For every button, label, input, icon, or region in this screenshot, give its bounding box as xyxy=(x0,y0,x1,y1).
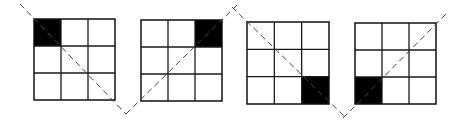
grid-2 xyxy=(126,4,238,114)
dashed-diagonal-line xyxy=(20,4,126,114)
grid-3 xyxy=(232,7,346,118)
dashed-diagonal-line xyxy=(343,12,448,118)
grid-1 xyxy=(20,4,126,114)
filled-cell-bottom-left xyxy=(355,77,382,104)
grid-4 xyxy=(343,12,448,118)
diagram-canvas xyxy=(0,0,465,122)
filled-cell-bottom-right xyxy=(302,77,329,104)
